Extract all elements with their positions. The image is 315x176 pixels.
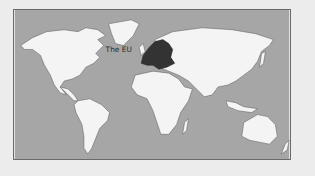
world-map-svg: The EU (14, 10, 290, 159)
eu-label: The EU (105, 45, 132, 54)
world-map: The EU (13, 9, 291, 160)
